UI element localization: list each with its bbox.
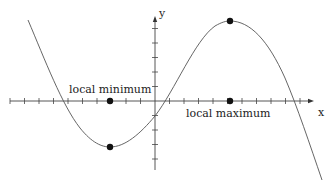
local-maximum-label: local maximum	[186, 107, 271, 120]
local-minimum-label: local minimum	[69, 83, 152, 96]
function-graph: x y local minimum local maximum	[0, 0, 330, 184]
x-axis: x	[10, 98, 325, 119]
local-minimum-point	[107, 144, 113, 150]
x-axis-label: x	[318, 106, 325, 119]
y-axis-label: y	[158, 7, 166, 20]
local-minimum-axis-marker	[107, 98, 113, 104]
local-maximum-point	[227, 18, 233, 24]
y-axis: y	[152, 7, 166, 170]
y-axis-arrow-icon	[153, 16, 157, 22]
function-curve	[28, 20, 322, 180]
local-maximum-axis-marker	[227, 98, 233, 104]
x-axis-arrow-icon	[308, 99, 314, 103]
